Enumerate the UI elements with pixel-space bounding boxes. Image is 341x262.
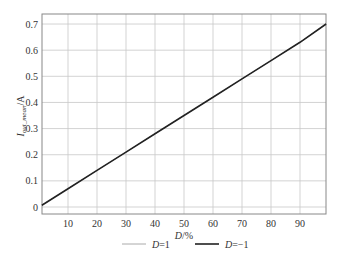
x-tick-label: 90 bbox=[295, 218, 305, 229]
x-tick-label: 20 bbox=[92, 218, 102, 229]
x-axis-label: D/% bbox=[174, 230, 193, 241]
y-tick-label: 0.2 bbox=[26, 149, 39, 160]
y-tick-label: 0 bbox=[33, 202, 38, 213]
x-tick-label: 50 bbox=[179, 218, 189, 229]
y-tick-label: 0.6 bbox=[26, 45, 39, 56]
legend-label-d1: D=1 bbox=[151, 239, 170, 250]
x-tick-label: 30 bbox=[121, 218, 131, 229]
legend-label-d-1: D=−1 bbox=[224, 239, 249, 250]
y-tick-label: 0.7 bbox=[26, 19, 39, 30]
y-tick-label: 0.1 bbox=[26, 175, 39, 186]
y-tick-label: 0.5 bbox=[26, 71, 39, 82]
x-tick-label: 40 bbox=[150, 218, 160, 229]
grid-lines bbox=[42, 14, 326, 214]
x-tick-label: 60 bbox=[208, 218, 218, 229]
x-tick-label: 10 bbox=[63, 218, 73, 229]
x-tick-label: 80 bbox=[266, 218, 276, 229]
x-tick-label: 70 bbox=[237, 218, 247, 229]
x-axis-ticks: 102030405060708090 bbox=[63, 218, 305, 229]
line-chart: 102030405060708090 00.10.20.30.40.50.60.… bbox=[0, 0, 341, 262]
